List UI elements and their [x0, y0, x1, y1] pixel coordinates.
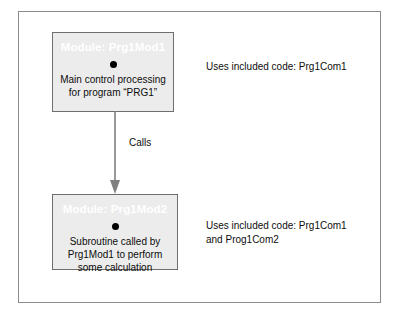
- module-box-prg1mod2: Module: Prg1Mod2 Subroutine called by Pr…: [52, 194, 178, 270]
- module-description: Main control processing for program “PRG…: [53, 68, 173, 99]
- module-description: Subroutine called by Prg1Mod1 to perform…: [53, 230, 177, 274]
- annotation-module-2: Uses included code: Prg1Com1 and Prog1Co…: [206, 219, 347, 247]
- annotation-module-1: Uses included code: Prg1Com1: [206, 60, 347, 74]
- filled-circle-bullet-icon: [110, 61, 117, 68]
- figure-frame: Module: Prg1Mod1 Main control processing…: [18, 11, 381, 303]
- filled-circle-bullet-icon: [112, 223, 119, 230]
- connector-label: Calls: [129, 137, 151, 149]
- module-box-prg1mod1: Module: Prg1Mod1 Main control processing…: [52, 32, 174, 112]
- down-arrow-icon: [103, 111, 127, 196]
- module-title: Module: Prg1Mod1: [53, 33, 173, 54]
- module-title: Module: Prg1Mod2: [53, 195, 177, 216]
